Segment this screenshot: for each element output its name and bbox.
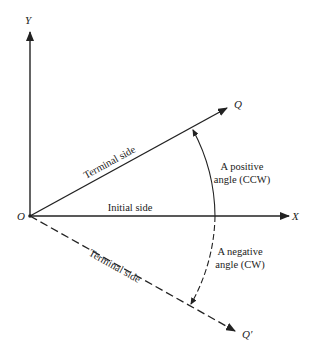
x-axis-label: X [291,210,300,222]
negative-angle-label-line1: A negative [217,246,263,257]
initial-side-label: Initial side [108,202,153,213]
point-q-label: Q [234,98,242,110]
point-q-prime-label: Q′ [242,328,253,340]
negative-angle-arc [191,216,215,304]
positive-angle-label-line1: A positive [221,161,264,172]
positive-angle-label-line2: angle (CCW) [214,174,271,186]
positive-angle-arc [193,130,215,216]
negative-angle-label-line2: angle (CW) [215,259,265,271]
origin-label: O [17,210,25,222]
y-axis-label: Y [25,14,33,26]
terminal-side-negative-label: Terminal side [87,247,143,285]
angle-diagram: Y X O Q Q′ Terminal side Terminal side I… [0,0,315,355]
terminal-side-positive [30,108,227,216]
